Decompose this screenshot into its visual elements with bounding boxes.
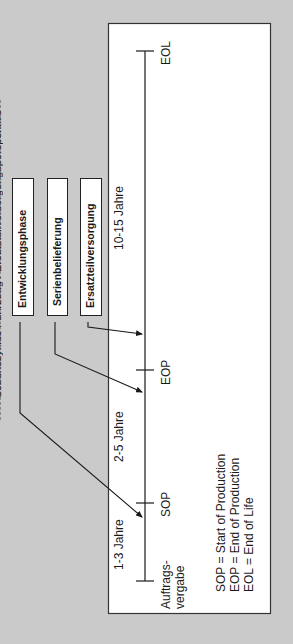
milestone-eol: EOL <box>160 41 173 65</box>
duration-10-15: 10-15 Jahre <box>113 186 126 250</box>
milestone-auftragsvergabe-line1: Auftrags- <box>160 560 173 609</box>
legend-eol: EOL = End of Life <box>243 497 256 592</box>
milestone-sop: SOP <box>160 492 173 517</box>
phase-label-ersatzteil: Ersatzteilversorgung <box>85 204 97 308</box>
phase-label-serie: Serienbelieferung <box>52 217 64 306</box>
milestone-eop: EOP <box>160 360 173 385</box>
milestone-auftragsvergabe-line2: vergabe <box>174 566 187 609</box>
duration-2-5: 2-5 Jahre <box>113 411 126 462</box>
legend-eop: EOP = End of Production <box>229 458 242 592</box>
phase-label-entwicklung: Entwicklungsphase <box>17 210 29 308</box>
legend-sop: SOP = Start of Production <box>215 454 228 592</box>
duration-1-3: 1-3 Jahre <box>113 519 126 570</box>
